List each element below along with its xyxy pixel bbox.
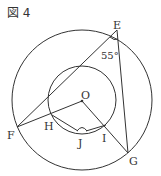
- label-I: I: [102, 132, 106, 145]
- label-H: H: [44, 120, 54, 133]
- segment-JI: [86, 125, 106, 131]
- label-G: G: [129, 155, 138, 168]
- geometry-diagram: E F G H I J O 55°: [0, 0, 161, 176]
- angle-arc-J: [77, 128, 87, 132]
- segment-HJ: [52, 115, 78, 131]
- label-F: F: [7, 129, 15, 142]
- angle-label-E: 55°: [101, 50, 119, 61]
- segment-EG: [117, 30, 128, 153]
- segment-OG: [82, 101, 128, 153]
- segment-EF: [17, 30, 117, 127]
- label-O: O: [81, 89, 90, 102]
- label-J: J: [77, 137, 82, 150]
- label-E: E: [113, 19, 121, 32]
